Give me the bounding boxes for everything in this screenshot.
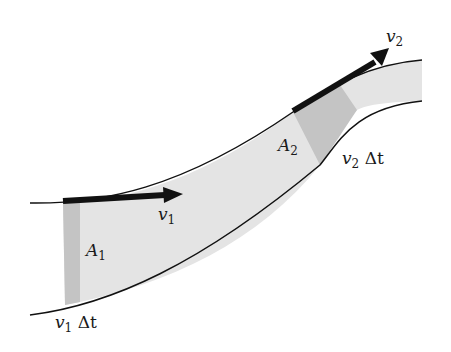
tube-fill [63, 60, 422, 305]
label-v2: v2 [386, 26, 403, 49]
label-v2-delta-t: v2 Δt [342, 148, 384, 171]
flow-tube-diagram [0, 0, 451, 352]
band-a1 [63, 203, 80, 305]
label-a2: A2 [278, 135, 298, 158]
label-v1-delta-t: v1 Δt [55, 312, 97, 335]
label-v1: v1 [158, 204, 175, 227]
label-a1: A1 [86, 240, 106, 263]
